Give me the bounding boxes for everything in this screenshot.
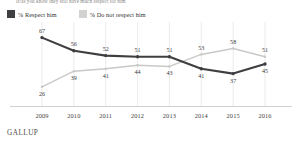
data-label: 51	[135, 47, 141, 53]
data-label: 43	[166, 70, 172, 76]
data-label: 58	[230, 39, 236, 45]
data-point[interactable]	[168, 65, 170, 67]
x-axis-tick-labels: 20092010201120122013201420152016	[0, 112, 301, 124]
data-point[interactable]	[232, 47, 234, 49]
x-axis-tick-2016: 2016	[258, 112, 271, 119]
legend-label-respect: % Respect him	[18, 11, 57, 18]
data-point[interactable]	[264, 56, 266, 58]
legend-item-do-not-respect[interactable]: % Do not respect him	[79, 9, 146, 19]
data-point[interactable]	[40, 36, 43, 39]
x-axis-tick-2012: 2012	[131, 112, 144, 119]
data-point[interactable]	[200, 67, 203, 70]
data-label: 41	[103, 73, 109, 79]
x-axis-tick-2010: 2010	[67, 112, 80, 119]
data-point[interactable]	[41, 86, 43, 88]
data-label: 67	[39, 28, 45, 34]
gallup-line-chart: If/as you know they still have much resp…	[0, 0, 301, 144]
data-point[interactable]	[136, 55, 139, 58]
data-point[interactable]	[73, 70, 75, 72]
data-point[interactable]	[104, 54, 107, 57]
data-point[interactable]	[263, 62, 266, 65]
data-label: 37	[230, 78, 236, 84]
x-axis-tick-2015: 2015	[227, 112, 240, 119]
legend-swatch-icon-do-not-respect	[79, 10, 87, 18]
legend-item-respect[interactable]: % Respect him	[7, 9, 57, 19]
data-point[interactable]	[72, 49, 75, 52]
chart-legend: % Respect him % Do not respect him	[7, 9, 146, 19]
data-point[interactable]	[231, 72, 234, 75]
chart-question-text: If/as you know they still have much resp…	[16, 0, 126, 4]
data-label: 51	[166, 47, 172, 53]
legend-label-do-not-respect: % Do not respect him	[90, 11, 146, 18]
data-point[interactable]	[200, 53, 202, 55]
x-axis-tick-2011: 2011	[99, 112, 112, 119]
data-label: 45	[262, 68, 268, 74]
data-label: 51	[262, 47, 268, 53]
data-label: 44	[135, 69, 141, 75]
legend-swatch-icon-respect	[7, 10, 15, 18]
plot-area: 67565251514137452639414443535851	[0, 22, 301, 112]
plot-svg: 67565251514137452639414443535851	[0, 22, 301, 112]
data-label: 56	[71, 41, 77, 47]
x-axis-tick-2013: 2013	[163, 112, 176, 119]
data-point[interactable]	[105, 68, 107, 70]
data-point[interactable]	[168, 55, 171, 58]
data-label: 26	[39, 91, 45, 97]
data-point[interactable]	[136, 64, 138, 66]
data-label: 53	[198, 45, 204, 51]
gallup-brand-logo: GALLUP	[7, 129, 38, 137]
x-axis-tick-2009: 2009	[35, 112, 48, 119]
data-label: 52	[103, 46, 109, 52]
x-axis-tick-2014: 2014	[195, 112, 208, 119]
data-label: 39	[71, 75, 77, 81]
data-label: 41	[198, 73, 204, 79]
